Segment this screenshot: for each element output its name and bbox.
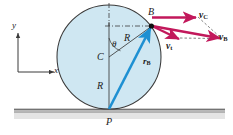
coordinate-axes	[18, 33, 54, 72]
velocity-label-vC-sub: C	[203, 13, 208, 20]
angle-theta-label: θ	[112, 40, 116, 49]
ground-surface	[14, 109, 225, 119]
axis-x-label: x	[54, 66, 58, 75]
position-vector-label-sub: B	[147, 60, 151, 66]
position-vector-label-rB: rB	[143, 57, 151, 66]
contact-point-label-P: P	[106, 117, 112, 127]
physics-diagram: y x C P B R R θ rB vC vt vB	[0, 0, 233, 135]
radius-label-upper-R: R	[124, 33, 130, 43]
velocity-label-vB: vB	[219, 33, 228, 43]
velocity-label-vt: vt	[166, 42, 172, 52]
velocity-label-vt-sub: t	[170, 44, 172, 51]
velocity-label-vB-sub: B	[223, 35, 227, 42]
rim-point-label-B: B	[148, 7, 154, 17]
axis-y-label: y	[12, 21, 16, 30]
center-label-C: C	[97, 52, 104, 62]
point-B-marker	[149, 23, 154, 28]
radius-label-lower-R: R	[97, 81, 103, 91]
velocity-label-vC: vC	[199, 11, 208, 21]
